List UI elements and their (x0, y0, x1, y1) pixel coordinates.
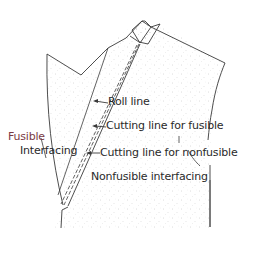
label-cutting-line-nonfusible: Cutting line for nonfusible (100, 147, 237, 159)
label-nonfusible-interfacing: Nonfusible interfacing (91, 171, 208, 183)
label-interfacing: Interfacing (20, 145, 77, 157)
label-fusible: Fusible (8, 131, 45, 143)
label-cutting-line-fusible: Cutting line for fusible (106, 120, 223, 132)
label-roll-line: Roll line (108, 96, 150, 108)
jacket-pattern-diagram: Fusible Interfacing Roll line Cutting li… (0, 0, 259, 261)
